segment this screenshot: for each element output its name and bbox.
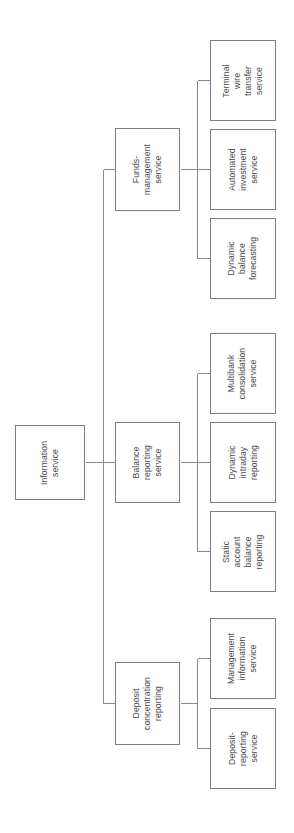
node-label: Dynamic intraday reporting <box>226 445 259 480</box>
node-label: Funds- management service <box>131 144 164 195</box>
node-label: Terminal wire transfer service <box>221 64 265 97</box>
node-dynamic-balance-forecasting[interactable]: Dynamic balance forecasting <box>210 218 276 299</box>
node-automated-investment-service[interactable]: Automated investment service <box>210 129 276 210</box>
node-label: Deposit concentration reporting <box>131 677 164 730</box>
node-multibank-consolidation-service[interactable]: Multibank consolidation service <box>210 333 276 414</box>
node-terminal-wire-transfer-service[interactable]: Terminal wire transfer service <box>210 40 276 121</box>
node-deposit-concentration-reporting[interactable]: Deposit concentration reporting <box>115 662 180 745</box>
node-label: Dynamic balance forecasting <box>226 237 259 280</box>
node-label: Information service <box>39 440 61 484</box>
node-label: Automated investment service <box>227 148 260 191</box>
node-deposit-reporting-service[interactable]: Deposit- reporting service <box>210 708 276 789</box>
node-label: Multibank consolidation service <box>227 348 260 399</box>
node-label: Management information service <box>226 633 259 684</box>
node-static-account-balance-reporting[interactable]: Static account balance reporting <box>210 511 276 592</box>
node-information-service[interactable]: Information service <box>15 425 85 500</box>
node-label: Balance reporting service <box>131 445 164 480</box>
node-label: Static account balance reporting <box>221 534 265 569</box>
node-balance-reporting-service[interactable]: Balance reporting service <box>115 422 180 503</box>
node-management-information-service[interactable]: Management information service <box>210 618 276 699</box>
node-dynamic-intraday-reporting[interactable]: Dynamic intraday reporting <box>210 422 276 503</box>
node-funds-management-service[interactable]: Funds- management service <box>115 128 180 211</box>
org-tree-diagram: Information service Funds- management se… <box>0 0 294 833</box>
node-label: Deposit- reporting service <box>226 731 259 766</box>
